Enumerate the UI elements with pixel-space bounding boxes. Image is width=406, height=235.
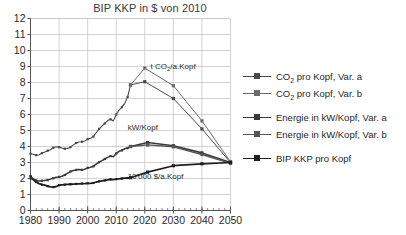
x-tick-label: 2010: [105, 214, 129, 226]
x-tick-label: 2030: [162, 214, 186, 226]
history-marker: [52, 147, 54, 149]
history-marker: [115, 113, 117, 115]
y-tick-label: 5: [20, 124, 26, 136]
series-marker: [146, 143, 149, 146]
x-tick-label: 2000: [76, 214, 100, 226]
history-marker: [127, 147, 129, 149]
legend-line-swatch: [243, 72, 271, 82]
history-marker: [64, 174, 66, 176]
history-marker: [41, 183, 43, 185]
x-tick-label: 2020: [133, 214, 157, 226]
history-marker: [41, 180, 43, 182]
history-marker: [29, 175, 31, 177]
legend-line-swatch: [243, 154, 271, 164]
series-marker: [200, 119, 203, 122]
history-marker: [75, 142, 77, 144]
y-tick-label: 2: [20, 172, 26, 184]
history-marker: [98, 180, 100, 182]
annotation-kw: kW/Kopf: [128, 123, 159, 132]
x-tick-label: 2040: [190, 214, 214, 226]
history-marker: [92, 135, 94, 137]
series-marker: [200, 162, 203, 165]
history-marker: [121, 106, 123, 108]
history-marker: [69, 170, 71, 172]
history-marker: [92, 182, 94, 184]
history-marker: [81, 169, 83, 171]
legend-line-swatch: [243, 113, 271, 123]
legend-item-label: CO2 pro Kopf, Var. b: [276, 88, 362, 99]
history-marker: [47, 179, 49, 181]
legend-item-co2-var-a[interactable]: CO2 pro Kopf, Var. a: [243, 68, 406, 85]
history-marker: [87, 167, 89, 169]
history-marker: [47, 185, 49, 187]
legend-item-co2-var-b[interactable]: CO2 pro Kopf, Var. b: [243, 85, 406, 102]
history-marker: [115, 178, 117, 180]
history-marker: [109, 118, 111, 120]
series-marker: [129, 83, 132, 86]
series-marker: [172, 164, 175, 167]
x-tick-label: 1980: [19, 214, 43, 226]
y-tick-label: 12: [14, 12, 26, 24]
chart-legend: CO2 pro Kopf, Var. aCO2 pro Kopf, Var. b…: [243, 68, 406, 167]
history-line: [31, 176, 131, 187]
legend-item-energie-var-b[interactable]: Energie in kW/Kopf, Var. b: [243, 126, 406, 143]
x-tick-label: 1990: [47, 214, 71, 226]
history-marker: [104, 158, 106, 160]
y-tick-label: 1: [20, 188, 26, 200]
series-marker: [143, 67, 146, 70]
history-marker: [35, 154, 37, 156]
history-marker: [58, 184, 60, 186]
history-marker: [29, 177, 31, 179]
chart-root: BIP KKP in $ von 2010 012345678910111219…: [0, 0, 406, 235]
y-tick-label: 6: [20, 108, 26, 120]
history-marker: [104, 122, 106, 124]
legend-line-swatch: [243, 89, 271, 99]
history-marker: [52, 186, 54, 188]
series-marker: [229, 161, 232, 164]
annotation-co2: t CO2/a.Kopf: [151, 62, 197, 72]
legend-item-energie-var-a[interactable]: Energie in kW/Kopf, Var. a: [243, 109, 406, 126]
series-marker: [172, 97, 175, 100]
history-marker: [87, 182, 89, 184]
history-marker: [121, 177, 123, 179]
history-marker: [58, 176, 60, 178]
history-marker: [87, 138, 89, 140]
history-marker: [81, 141, 83, 143]
series-marker: [172, 145, 175, 148]
annotation-bip: 10'000 $/a.Kopf: [128, 172, 185, 181]
history-marker: [64, 148, 66, 150]
y-tick-label: 4: [20, 140, 26, 152]
history-marker: [92, 165, 94, 167]
history-marker: [75, 183, 77, 185]
y-tick-label: 7: [20, 92, 26, 104]
history-marker: [64, 183, 66, 185]
history-marker: [104, 179, 106, 181]
y-tick-label: 11: [15, 28, 26, 40]
history-marker: [81, 183, 83, 185]
history-marker: [29, 153, 31, 155]
history-marker: [75, 169, 77, 171]
history-marker: [69, 146, 71, 148]
history-marker: [35, 181, 37, 183]
y-tick-label: 10: [14, 44, 26, 56]
legend-item-label: Energie in kW/Kopf, Var. a: [276, 112, 387, 123]
history-marker: [109, 178, 111, 180]
series-marker: [200, 127, 203, 130]
history-marker: [115, 152, 117, 154]
y-tick-label: 3: [20, 156, 26, 168]
x-tick-label: 2050: [219, 214, 243, 226]
series-marker: [129, 145, 132, 148]
y-tick-label: 9: [20, 60, 26, 72]
legend-item-label: Energie in kW/Kopf, Var. b: [276, 129, 387, 140]
history-marker: [69, 183, 71, 185]
series-marker: [143, 80, 146, 83]
history-line: [31, 85, 131, 155]
history-marker: [121, 149, 123, 151]
y-tick-label: 8: [20, 76, 26, 88]
history-marker: [98, 128, 100, 130]
history-marker: [127, 96, 129, 98]
history-marker: [47, 150, 49, 152]
history-marker: [98, 161, 100, 163]
legend-item-bip-kkp[interactable]: BIP KKP pro Kopf: [243, 150, 406, 167]
history-marker: [109, 155, 111, 157]
